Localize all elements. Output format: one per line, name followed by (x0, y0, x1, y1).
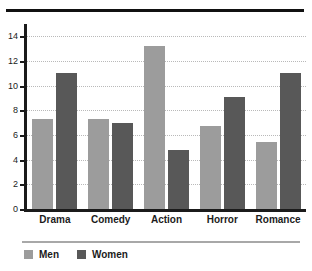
y-tick-label: 0 (13, 205, 18, 214)
chart-legend: MenWomen (24, 249, 128, 260)
bar-horror-women (224, 97, 245, 209)
bar-comedy-women (112, 123, 133, 209)
bar-group (250, 24, 306, 209)
y-tick-mark (20, 184, 25, 186)
bar-group (27, 24, 83, 209)
y-tick-label: 6 (13, 131, 18, 140)
y-tick-mark (20, 160, 25, 162)
y-tick-label: 14 (8, 32, 18, 41)
plot-area: 02468101214 (24, 24, 306, 212)
bars-layer (27, 24, 306, 209)
y-tick-label: 4 (13, 155, 18, 164)
legend-swatch-women (77, 250, 86, 259)
bar-comedy-men (88, 119, 109, 209)
top-divider-rule (6, 9, 304, 12)
bar-chart-figure: 02468101214 DramaComedyActionHorrorRoman… (0, 0, 312, 271)
y-tick-label: 2 (13, 180, 18, 189)
y-tick-label: 12 (8, 57, 18, 66)
category-label-drama: Drama (39, 214, 70, 226)
bar-group (194, 24, 250, 209)
legend-item-men[interactable]: Men (24, 249, 59, 260)
bar-action-men (144, 46, 165, 209)
category-label-horror: Horror (207, 214, 238, 226)
category-label-action: Action (151, 214, 182, 226)
y-tick-mark (20, 135, 25, 137)
y-tick-mark (20, 86, 25, 88)
bar-group (139, 24, 195, 209)
legend-label-men: Men (39, 249, 59, 260)
legend-separator (22, 241, 300, 243)
bar-romance-women (280, 73, 301, 209)
y-tick-mark (20, 209, 25, 211)
bar-group (83, 24, 139, 209)
x-axis-line (24, 209, 306, 212)
category-label-comedy: Comedy (91, 214, 130, 226)
bar-drama-women (56, 73, 77, 209)
bar-action-women (168, 150, 189, 209)
bar-horror-men (200, 126, 221, 209)
bar-drama-men (32, 119, 53, 209)
legend-item-women[interactable]: Women (77, 249, 128, 260)
y-tick-mark (20, 36, 25, 38)
y-tick-label: 10 (8, 81, 18, 90)
y-tick-label: 8 (13, 106, 18, 115)
category-label-romance: Romance (256, 214, 301, 226)
legend-label-women: Women (92, 249, 128, 260)
x-axis-category-labels: DramaComedyActionHorrorRomance (27, 214, 306, 230)
legend-swatch-men (24, 250, 33, 259)
y-tick-mark (20, 61, 25, 63)
y-tick-mark (20, 110, 25, 112)
bar-romance-men (256, 142, 277, 209)
